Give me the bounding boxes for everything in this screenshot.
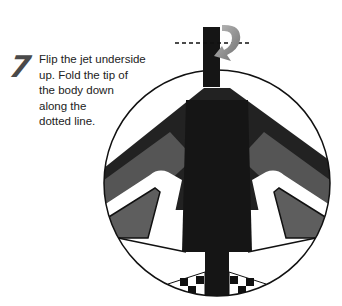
- jet-diagram: [0, 0, 342, 306]
- fuselage: [182, 100, 252, 252]
- jet-body-zoom: [100, 65, 340, 306]
